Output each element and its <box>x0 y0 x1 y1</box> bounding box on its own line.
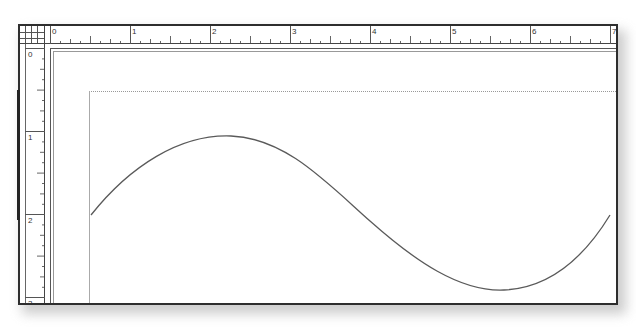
drawing-canvas[interactable] <box>20 26 618 305</box>
window-edge-bar <box>17 90 20 220</box>
document-window: 0 1 2 3 4 5 6 7 0 1 2 3 <box>18 24 618 305</box>
sine-curve[interactable] <box>91 136 610 290</box>
